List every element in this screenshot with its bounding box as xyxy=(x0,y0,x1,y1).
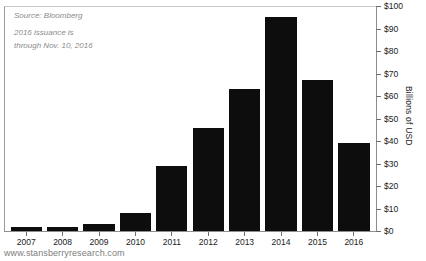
bar-slot xyxy=(336,6,372,231)
x-tick-slot xyxy=(117,232,153,236)
bar-slot xyxy=(154,6,190,231)
y-tick-label: $0 xyxy=(384,227,393,236)
source-line: Source: Bloomberg xyxy=(14,10,93,22)
y-tick-label: $60 xyxy=(384,92,398,101)
bar-slot xyxy=(299,6,335,231)
x-tick-label-2007: 2007 xyxy=(8,237,44,247)
x-tick-label-2013: 2013 xyxy=(226,237,262,247)
y-tick-label: $70 xyxy=(384,69,398,78)
x-tick xyxy=(62,232,63,236)
x-tick-label-2016: 2016 xyxy=(336,237,372,247)
x-tick-slot xyxy=(44,232,80,236)
x-tick-label-2009: 2009 xyxy=(81,237,117,247)
bar-2012 xyxy=(193,128,224,232)
x-tick xyxy=(99,232,100,236)
bar-2013 xyxy=(229,89,260,231)
x-tick-slot xyxy=(154,232,190,236)
y-tick-label: $20 xyxy=(384,182,398,191)
x-tick-label-2011: 2011 xyxy=(154,237,190,247)
y-tick xyxy=(376,74,381,75)
bar-2009 xyxy=(83,224,114,231)
x-tick xyxy=(208,232,209,236)
chart-figure: $100$90$80$70$60$50$40$30$20$10$0 200720… xyxy=(0,0,426,261)
x-tick-slot xyxy=(190,232,226,236)
bar-slot xyxy=(190,6,226,231)
x-tick-label-2008: 2008 xyxy=(44,237,80,247)
y-tick-label: $100 xyxy=(384,2,403,11)
bar-slot xyxy=(226,6,262,231)
x-axis-ticks xyxy=(4,232,376,236)
x-tick-label-2010: 2010 xyxy=(117,237,153,247)
bar-slot xyxy=(117,6,153,231)
y-tick xyxy=(376,231,381,232)
y-tick xyxy=(376,186,381,187)
x-tick-label-2015: 2015 xyxy=(299,237,335,247)
x-tick-slot xyxy=(8,232,44,236)
bar-2016 xyxy=(338,143,369,231)
y-tick xyxy=(376,96,381,97)
x-tick-slot xyxy=(299,232,335,236)
x-tick-slot xyxy=(81,232,117,236)
x-tick xyxy=(135,232,136,236)
y-tick-label: $30 xyxy=(384,159,398,168)
bar-slot xyxy=(263,6,299,231)
y-tick xyxy=(376,6,381,7)
x-tick-label-2012: 2012 xyxy=(190,237,226,247)
watermark-label: www.stansberryresearch.com xyxy=(4,248,125,258)
bar-2010 xyxy=(120,213,151,231)
y-tick xyxy=(376,29,381,30)
x-tick xyxy=(244,232,245,236)
bar-2014 xyxy=(265,17,296,231)
y-tick xyxy=(376,141,381,142)
issuance-note: 2016 issuance is through Nov. 10, 2016 xyxy=(14,27,93,52)
y-tick-label: $50 xyxy=(384,114,398,123)
y-tick-label: $40 xyxy=(384,137,398,146)
bar-2015 xyxy=(302,80,333,231)
x-tick-slot xyxy=(226,232,262,236)
x-tick xyxy=(317,232,318,236)
x-axis-labels: 2007200820092010201120122013201420152016 xyxy=(4,237,376,247)
bar-2011 xyxy=(156,166,187,231)
y-tick xyxy=(376,51,381,52)
y-tick xyxy=(376,119,381,120)
x-tick-label-2014: 2014 xyxy=(263,237,299,247)
x-tick xyxy=(353,232,354,236)
x-tick xyxy=(281,232,282,236)
x-tick xyxy=(171,232,172,236)
y-tick xyxy=(376,209,381,210)
y-axis-title: Billions of USD xyxy=(404,86,414,146)
y-tick xyxy=(376,164,381,165)
source-annotation: Source: Bloomberg2016 issuance is throug… xyxy=(14,10,93,52)
x-tick-slot xyxy=(263,232,299,236)
y-tick-label: $90 xyxy=(384,24,398,33)
y-tick-label: $80 xyxy=(384,47,398,56)
y-tick-label: $10 xyxy=(384,204,398,213)
x-tick-slot xyxy=(336,232,372,236)
x-tick xyxy=(26,232,27,236)
